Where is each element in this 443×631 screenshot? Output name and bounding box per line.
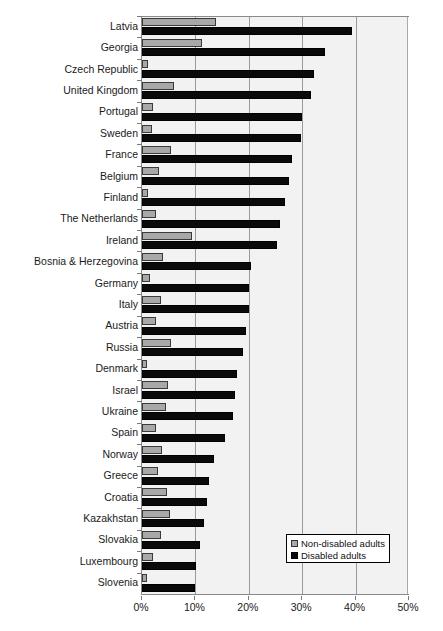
bar-non-disabled bbox=[142, 317, 156, 325]
y-axis-tick-icon bbox=[137, 273, 142, 274]
x-axis-tick-label: 50% bbox=[397, 601, 418, 613]
y-axis-tick-icon bbox=[137, 337, 142, 338]
y-axis-tick-icon bbox=[137, 294, 142, 295]
x-axis-tick-icon bbox=[141, 596, 142, 600]
bar-group bbox=[142, 251, 407, 272]
category-label: France bbox=[2, 149, 138, 160]
y-axis-tick-icon bbox=[137, 316, 142, 317]
bar-non-disabled bbox=[142, 189, 148, 197]
bar-non-disabled bbox=[142, 103, 153, 111]
legend-swatch-icon-non-disabled bbox=[291, 540, 298, 547]
y-axis-tick-icon bbox=[137, 80, 142, 81]
bar-disabled bbox=[142, 541, 200, 549]
x-axis-tick-label: 40% bbox=[344, 601, 365, 613]
bar-disabled bbox=[142, 477, 209, 485]
y-axis-tick-icon bbox=[137, 37, 142, 38]
bar-disabled bbox=[142, 412, 233, 420]
bar-disabled bbox=[142, 134, 301, 142]
y-axis-tick-icon bbox=[137, 166, 142, 167]
bar-group bbox=[142, 466, 407, 487]
y-axis-tick-icon bbox=[137, 251, 142, 252]
bar-group bbox=[142, 337, 407, 358]
bar-group bbox=[142, 144, 407, 165]
category-label: Belgium bbox=[2, 171, 138, 182]
category-label: Ireland bbox=[2, 235, 138, 246]
bar-non-disabled bbox=[142, 232, 192, 240]
bar-non-disabled bbox=[142, 553, 153, 561]
y-axis-tick-icon bbox=[137, 59, 142, 60]
y-axis-tick-icon bbox=[137, 16, 142, 17]
y-axis-tick-icon bbox=[137, 487, 142, 488]
x-axis-tick-labels: 0%10%20%30%40%50% bbox=[141, 596, 409, 616]
y-axis-tick-icon bbox=[137, 573, 142, 574]
bar-non-disabled bbox=[142, 510, 170, 518]
bar-group bbox=[142, 123, 407, 144]
y-axis-tick-icon bbox=[137, 187, 142, 188]
x-axis-line bbox=[141, 594, 409, 595]
bar-non-disabled bbox=[142, 125, 152, 133]
chart-legend: Non-disabled adults Disabled adults bbox=[286, 534, 390, 563]
bar-non-disabled bbox=[142, 381, 168, 389]
y-axis-tick-icon bbox=[137, 102, 142, 103]
x-axis-tick-icon bbox=[194, 596, 195, 600]
category-label: Germany bbox=[2, 278, 138, 289]
bar-non-disabled bbox=[142, 339, 171, 347]
y-axis-tick-icon bbox=[137, 380, 142, 381]
category-label: Luxembourg bbox=[2, 556, 138, 567]
bar-non-disabled bbox=[142, 146, 171, 154]
category-label: Denmark bbox=[2, 363, 138, 374]
bar-group bbox=[142, 209, 407, 230]
y-axis-tick-icon bbox=[137, 144, 142, 145]
y-axis-tick-icon bbox=[137, 359, 142, 360]
bar-group bbox=[142, 401, 407, 422]
y-axis-tick-icon bbox=[137, 230, 142, 231]
bar-non-disabled bbox=[142, 82, 174, 90]
bar-disabled bbox=[142, 177, 289, 185]
x-axis-tick-label: 0% bbox=[133, 601, 148, 613]
category-label: Portugal bbox=[2, 106, 138, 117]
bar-group bbox=[142, 80, 407, 101]
bars-container bbox=[142, 16, 407, 594]
bar-disabled bbox=[142, 241, 277, 249]
bar-disabled bbox=[142, 27, 352, 35]
legend-swatch-icon-disabled bbox=[291, 552, 298, 559]
y-axis-tick-icon bbox=[137, 401, 142, 402]
bar-disabled bbox=[142, 498, 207, 506]
bar-group bbox=[142, 508, 407, 529]
bar-disabled bbox=[142, 155, 292, 163]
bar-non-disabled bbox=[142, 467, 158, 475]
bar-non-disabled bbox=[142, 446, 162, 454]
y-axis-tick-icon bbox=[137, 423, 142, 424]
category-label: Slovenia bbox=[2, 577, 138, 588]
bar-group bbox=[142, 102, 407, 123]
bar-disabled bbox=[142, 113, 302, 121]
bar-non-disabled bbox=[142, 39, 202, 47]
bar-non-disabled bbox=[142, 18, 216, 26]
category-label: Austria bbox=[2, 320, 138, 331]
category-label: Georgia bbox=[2, 42, 138, 53]
category-label: Czech Republic bbox=[2, 64, 138, 75]
legend-item-disabled-adults: Disabled adults bbox=[291, 550, 385, 561]
bar-disabled bbox=[142, 391, 235, 399]
bar-chart: LatviaGeorgiaCzech RepublicUnited Kingdo… bbox=[0, 0, 443, 631]
legend-item-non-disabled-adults: Non-disabled adults bbox=[291, 538, 385, 549]
bar-non-disabled bbox=[142, 488, 167, 496]
bar-non-disabled bbox=[142, 574, 147, 582]
category-label: Israel bbox=[2, 385, 138, 396]
category-label: Kazakhstan bbox=[2, 513, 138, 524]
bar-disabled bbox=[142, 584, 195, 592]
category-label: Norway bbox=[2, 449, 138, 460]
plot-area bbox=[141, 16, 408, 594]
category-label: Greece bbox=[2, 470, 138, 481]
bar-disabled bbox=[142, 284, 249, 292]
bar-group bbox=[142, 487, 407, 508]
bar-non-disabled bbox=[142, 531, 161, 539]
category-label: Sweden bbox=[2, 128, 138, 139]
plot-top-border bbox=[141, 16, 409, 17]
legend-label-non-disabled: Non-disabled adults bbox=[301, 539, 385, 549]
category-label: Slovakia bbox=[2, 534, 138, 545]
category-label: Russia bbox=[2, 342, 138, 353]
x-axis-tick-icon bbox=[248, 596, 249, 600]
bar-disabled bbox=[142, 327, 246, 335]
bar-disabled bbox=[142, 48, 325, 56]
